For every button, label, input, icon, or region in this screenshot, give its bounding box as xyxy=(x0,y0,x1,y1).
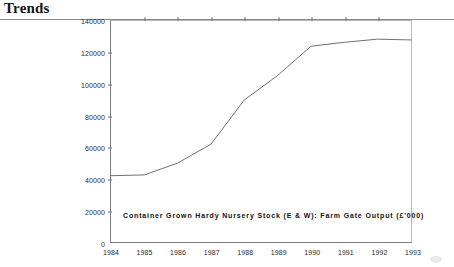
x-axis-tick-label: 1985 xyxy=(137,242,153,256)
trends-line-chart: 020000400006000080000100000120000140000 … xyxy=(0,14,454,267)
scan-artifact xyxy=(430,256,442,263)
y-axis-tick-label: 120000 xyxy=(81,49,111,56)
y-axis-tick-label: 140000 xyxy=(81,18,111,25)
x-axis-tick-label: 1990 xyxy=(304,242,320,256)
x-axis-tick-label: 1984 xyxy=(103,242,119,256)
x-axis-tick-label: 1987 xyxy=(204,242,220,256)
x-axis-tick-label: 1991 xyxy=(338,242,354,256)
x-axis-tick-label: 1988 xyxy=(237,242,253,256)
series-line xyxy=(111,21,411,242)
x-axis-tick-label: 1989 xyxy=(271,242,287,256)
x-axis-tick-label: 1986 xyxy=(170,242,186,256)
x-axis-tick-label: 1993 xyxy=(405,242,421,256)
plot-area: 020000400006000080000100000120000140000 … xyxy=(110,20,412,243)
chart-caption: Container Grown Hardy Nursery Stock (E &… xyxy=(123,212,424,219)
y-axis-tick-label: 100000 xyxy=(81,81,111,88)
x-axis-tick-label: 1992 xyxy=(371,242,387,256)
